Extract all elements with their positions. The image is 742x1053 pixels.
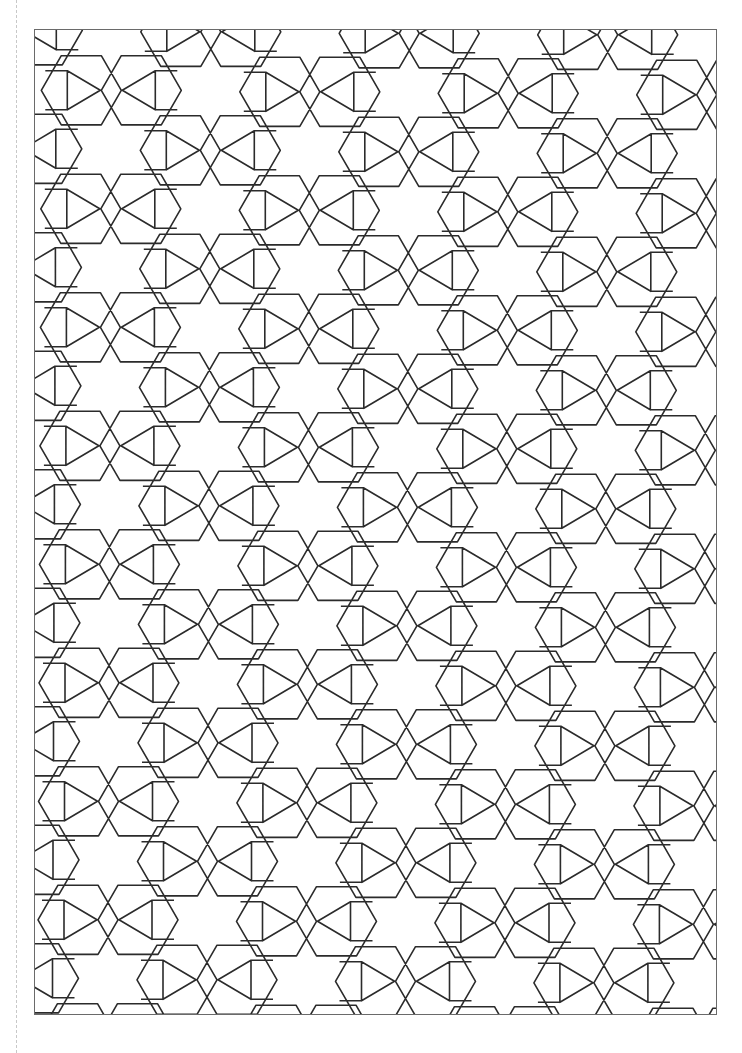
dashed-cut-line: [16, 0, 17, 1053]
coloring-page-frame: [34, 29, 717, 1015]
geometric-tessellation: [35, 30, 717, 1015]
tessellation-lines: [35, 30, 717, 1015]
